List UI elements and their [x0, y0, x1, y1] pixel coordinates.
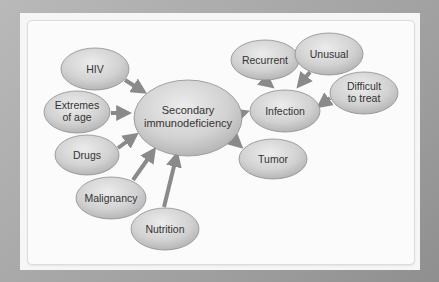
node-label-extremes-line2: of age	[62, 111, 91, 123]
node-hiv: HIV	[61, 48, 129, 90]
node-label-extremes-line1: Extremes	[55, 99, 99, 111]
node-label-unusual: Unusual	[310, 48, 349, 60]
node-tumor: Tumor	[239, 139, 307, 179]
node-label-difficult-line1: Difficult	[347, 80, 381, 92]
node-label-difficult-line2: to treat	[348, 92, 381, 104]
node-label-hiv: HIV	[86, 63, 104, 75]
node-unusual: Unusual	[295, 33, 363, 75]
arrow-recurrent-to-infection	[264, 80, 269, 84]
node-label-secondary-line2: immunodeficiency	[144, 117, 233, 129]
arrow-unusual-to-infection	[301, 72, 310, 83]
node-extremes-of-age: Extremes of age	[44, 91, 110, 133]
node-label-malignancy: Malignancy	[84, 192, 138, 204]
arrow-drugs-to-secondary	[118, 137, 133, 148]
arrow-nutrition-to-secondary	[164, 158, 176, 207]
node-difficult-to-treat: Difficult to treat	[330, 72, 398, 114]
node-secondary-immunodeficiency: Secondary immunodeficiency	[134, 80, 242, 156]
node-infection: Infection	[250, 90, 320, 132]
node-malignancy: Malignancy	[76, 177, 146, 219]
arrow-hiv-to-secondary	[125, 80, 141, 90]
node-label-recurrent: Recurrent	[242, 54, 288, 66]
node-label-nutrition: Nutrition	[145, 223, 184, 235]
diagram-canvas: HIV Extremes of age Drugs Malignancy Nut…	[0, 0, 439, 282]
node-label-infection: Infection	[265, 105, 305, 117]
arrow-malignancy-to-secondary	[133, 153, 152, 180]
node-recurrent: Recurrent	[231, 40, 299, 80]
node-drugs: Drugs	[55, 135, 119, 175]
arrow-difficult-to-infection	[322, 98, 330, 104]
node-label-secondary-line1: Secondary	[162, 104, 215, 116]
node-label-drugs: Drugs	[73, 149, 101, 161]
node-nutrition: Nutrition	[131, 208, 199, 250]
node-label-tumor: Tumor	[258, 153, 288, 165]
